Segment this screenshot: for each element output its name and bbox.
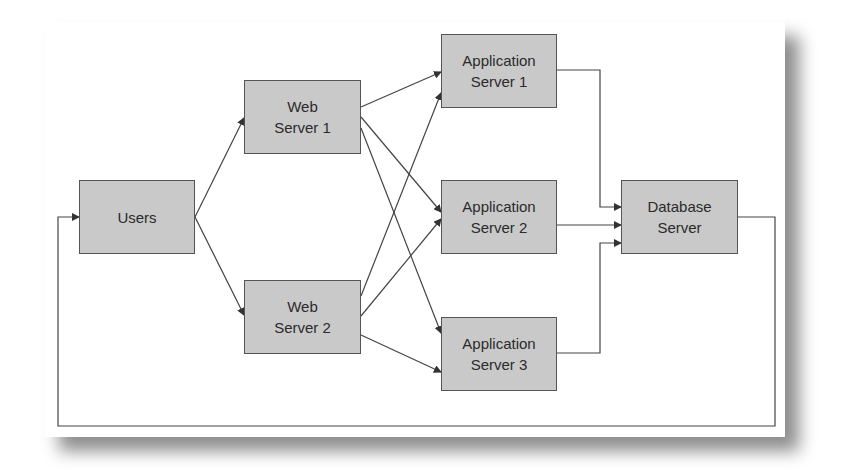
edge-web1-app1 <box>361 72 441 107</box>
edge-web2-app1 <box>361 93 441 296</box>
edge-web2-app3 <box>361 335 441 372</box>
node-application-server-1: Application Server 1 <box>441 34 557 108</box>
node-web-server-1: Web Server 1 <box>244 80 361 154</box>
edge-web1-app2 <box>361 117 441 212</box>
node-application-server-3: Application Server 3 <box>441 317 557 391</box>
edge-app1-db <box>557 70 621 207</box>
edge-users-web2 <box>195 217 244 315</box>
edge-app3-db <box>557 243 621 353</box>
node-web-server-2: Web Server 2 <box>244 280 361 354</box>
node-users: Users <box>79 180 195 254</box>
edge-users-web1 <box>195 118 244 217</box>
node-database-server: Database Server <box>621 180 738 254</box>
node-application-server-2: Application Server 2 <box>441 180 557 254</box>
